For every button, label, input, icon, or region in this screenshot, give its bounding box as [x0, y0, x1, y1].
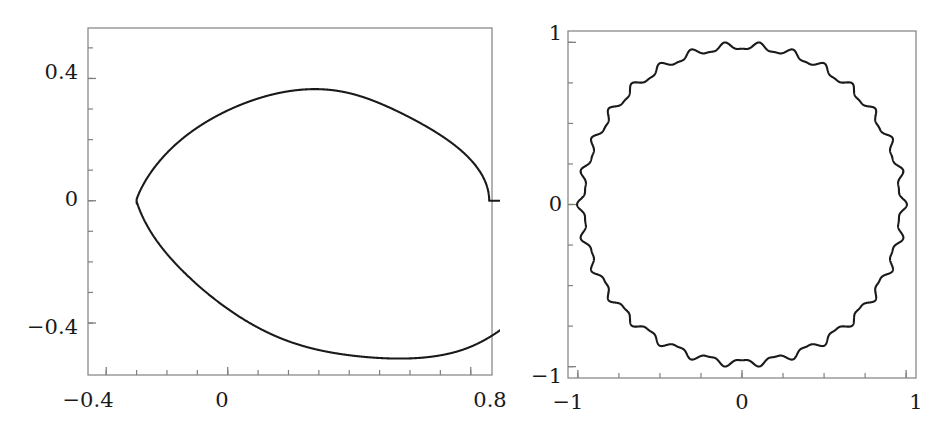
- right-plot-panel: 1 0 −1 −1 0 1: [500, 0, 941, 435]
- right-ytick-label-0: 1: [549, 23, 562, 44]
- left-ytick-label-0: 0.4: [45, 62, 78, 83]
- right-plot-axes: [568, 31, 916, 378]
- left-xtick-label-0: −0.4: [63, 390, 114, 411]
- left-plot-curve: [137, 89, 500, 358]
- right-xtick-label-2: 1: [909, 392, 922, 413]
- right-plot-canvas: [500, 0, 941, 435]
- right-xtick-label-1: 0: [735, 392, 748, 413]
- left-ytick-label-2: −0.4: [27, 317, 78, 338]
- two-panel-parametric-curve-figure: 0.4 0 −0.4 −0.4 0 0.8 1 0 −1 −1 0 1: [0, 0, 941, 435]
- right-ytick-label-1: 0: [549, 194, 562, 215]
- right-xtick-label-0: −1: [553, 392, 584, 413]
- right-plot-curve: [577, 42, 907, 366]
- left-plot-panel: 0.4 0 −0.4 −0.4 0 0.8: [0, 0, 500, 435]
- right-ytick-label-2: −1: [531, 366, 562, 387]
- left-xtick-label-1: 0: [215, 390, 228, 411]
- left-ytick-label-1: 0: [65, 189, 78, 210]
- left-plot-axes: [88, 28, 492, 375]
- plot-frame: [568, 31, 916, 378]
- plot-frame: [88, 28, 492, 375]
